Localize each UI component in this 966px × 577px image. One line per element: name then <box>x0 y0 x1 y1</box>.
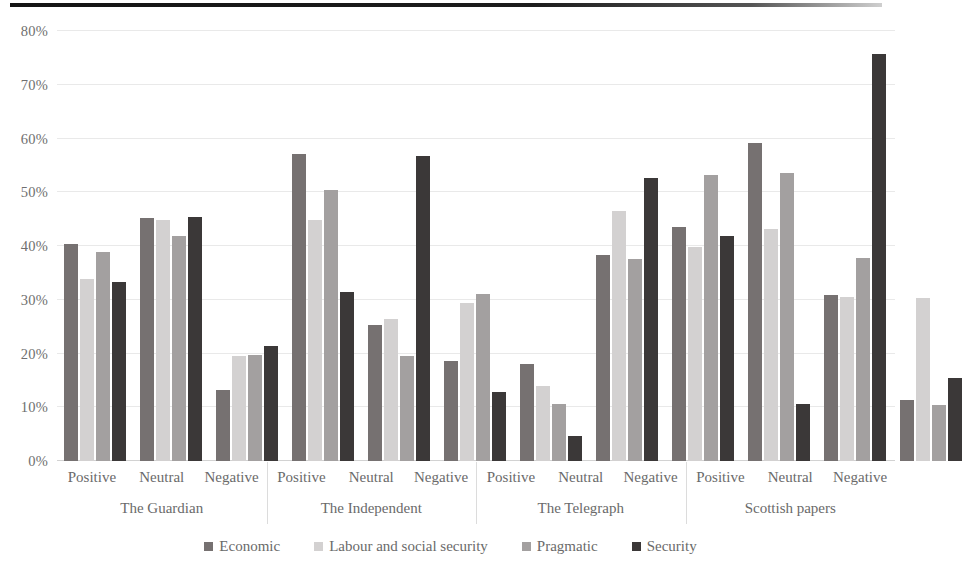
x-axis-paper-labels: The GuardianThe IndependentThe Telegraph… <box>57 492 895 524</box>
bar-security[interactable] <box>112 282 126 461</box>
bar-security[interactable] <box>340 292 354 461</box>
x-group-label-the-independent: The Independent <box>267 492 477 524</box>
bar-groups <box>57 31 895 461</box>
y-tick-label-30: 30% <box>21 291 48 308</box>
x-tick-label-neutral: Neutral <box>755 462 825 492</box>
bar-security[interactable] <box>416 156 430 461</box>
x-sentiment-row-scottish-papers: PositiveNeutralNegative <box>686 462 896 492</box>
y-tick-label-0: 0% <box>28 453 48 470</box>
bar-security[interactable] <box>872 54 886 461</box>
legend-label: Security <box>647 538 697 555</box>
bar-economic[interactable] <box>216 390 230 461</box>
axis-divider <box>686 462 687 492</box>
bar-security[interactable] <box>568 436 582 461</box>
x-tick-label-positive: Positive <box>267 462 337 492</box>
bar-pragmatic[interactable] <box>704 175 718 461</box>
bar-labour-and-social-security[interactable] <box>764 229 778 461</box>
bar-labour-and-social-security[interactable] <box>156 220 170 461</box>
axis-divider <box>267 462 268 492</box>
bar-pragmatic[interactable] <box>400 356 414 461</box>
x-tick-label-neutral: Neutral <box>127 462 197 492</box>
bar-economic[interactable] <box>64 244 78 461</box>
sentiment-group-positive <box>513 31 589 461</box>
bar-economic[interactable] <box>596 255 610 461</box>
bar-pragmatic[interactable] <box>96 252 110 461</box>
axis-divider <box>686 492 687 524</box>
bar-economic[interactable] <box>444 361 458 461</box>
x-tick-label-negative: Negative <box>197 462 267 492</box>
sentiment-group-neutral <box>589 31 665 461</box>
bar-security[interactable] <box>796 404 810 461</box>
axis-divider <box>476 462 477 492</box>
sentiment-group-positive <box>741 31 817 461</box>
paper-group-the-guardian <box>57 31 285 461</box>
bar-labour-and-social-security[interactable] <box>232 356 246 461</box>
bar-economic[interactable] <box>748 143 762 461</box>
x-tick-label-positive: Positive <box>686 462 756 492</box>
bar-labour-and-social-security[interactable] <box>612 211 626 461</box>
legend-swatch-icon <box>632 542 641 551</box>
bar-labour-and-social-security[interactable] <box>536 386 550 461</box>
y-tick-label-20: 20% <box>21 345 48 362</box>
bar-security[interactable] <box>492 392 506 461</box>
bar-security[interactable] <box>948 378 962 461</box>
x-tick-label-positive: Positive <box>476 462 546 492</box>
bar-pragmatic[interactable] <box>476 294 490 461</box>
sentiment-group-negative <box>437 31 513 461</box>
legend-item-economic[interactable]: Economic <box>204 538 280 555</box>
bar-labour-and-social-security[interactable] <box>916 298 930 461</box>
bar-security[interactable] <box>188 217 202 461</box>
bar-security[interactable] <box>644 178 658 461</box>
bar-labour-and-social-security[interactable] <box>308 220 322 461</box>
x-tick-label-neutral: Neutral <box>336 462 406 492</box>
legend-swatch-icon <box>314 542 323 551</box>
bar-economic[interactable] <box>520 364 534 461</box>
bar-pragmatic[interactable] <box>172 236 186 461</box>
x-axis: PositiveNeutralNegativePositiveNeutralNe… <box>57 462 895 524</box>
x-axis-sentiment-labels: PositiveNeutralNegativePositiveNeutralNe… <box>57 462 895 492</box>
sentiment-group-positive <box>285 31 361 461</box>
bar-pragmatic[interactable] <box>780 173 794 461</box>
bar-labour-and-social-security[interactable] <box>840 297 854 461</box>
bar-labour-and-social-security[interactable] <box>80 279 94 461</box>
x-sentiment-row-the-independent: PositiveNeutralNegative <box>267 462 477 492</box>
sentiment-group-negative <box>893 31 966 461</box>
y-axis: 80%70%60%50%40%30%20%10%0% <box>0 0 57 577</box>
legend-item-labour-and-social-security[interactable]: Labour and social security <box>314 538 488 555</box>
legend-swatch-icon <box>204 542 213 551</box>
x-tick-label-positive: Positive <box>57 462 127 492</box>
x-tick-label-negative: Negative <box>616 462 686 492</box>
bar-economic[interactable] <box>292 154 306 461</box>
bar-pragmatic[interactable] <box>856 258 870 461</box>
legend-item-security[interactable]: Security <box>632 538 697 555</box>
legend-label: Economic <box>219 538 280 555</box>
bar-pragmatic[interactable] <box>248 355 262 461</box>
bar-pragmatic[interactable] <box>552 404 566 461</box>
bar-security[interactable] <box>720 236 734 461</box>
x-sentiment-row-the-guardian: PositiveNeutralNegative <box>57 462 267 492</box>
legend-swatch-icon <box>522 542 531 551</box>
bar-labour-and-social-security[interactable] <box>460 303 474 461</box>
legend-item-pragmatic[interactable]: Pragmatic <box>522 538 598 555</box>
bar-pragmatic[interactable] <box>628 259 642 461</box>
x-group-label-the-guardian: The Guardian <box>57 492 267 524</box>
bar-economic[interactable] <box>672 227 686 461</box>
bar-economic[interactable] <box>900 400 914 461</box>
bar-economic[interactable] <box>824 295 838 461</box>
paper-group-the-independent <box>285 31 513 461</box>
bar-labour-and-social-security[interactable] <box>688 247 702 461</box>
bar-economic[interactable] <box>368 325 382 461</box>
axis-divider <box>267 492 268 524</box>
sentiment-group-neutral <box>817 31 893 461</box>
bar-pragmatic[interactable] <box>324 190 338 461</box>
bar-security[interactable] <box>264 346 278 461</box>
bar-economic[interactable] <box>140 218 154 461</box>
bar-labour-and-social-security[interactable] <box>384 319 398 461</box>
bar-pragmatic[interactable] <box>932 405 946 461</box>
y-tick-label-70: 70% <box>21 76 48 93</box>
sentiment-group-negative <box>209 31 285 461</box>
chart-legend: EconomicLabour and social securityPragma… <box>0 531 901 561</box>
paper-group-scottish-papers <box>741 31 966 461</box>
x-group-label-the-telegraph: The Telegraph <box>476 492 686 524</box>
